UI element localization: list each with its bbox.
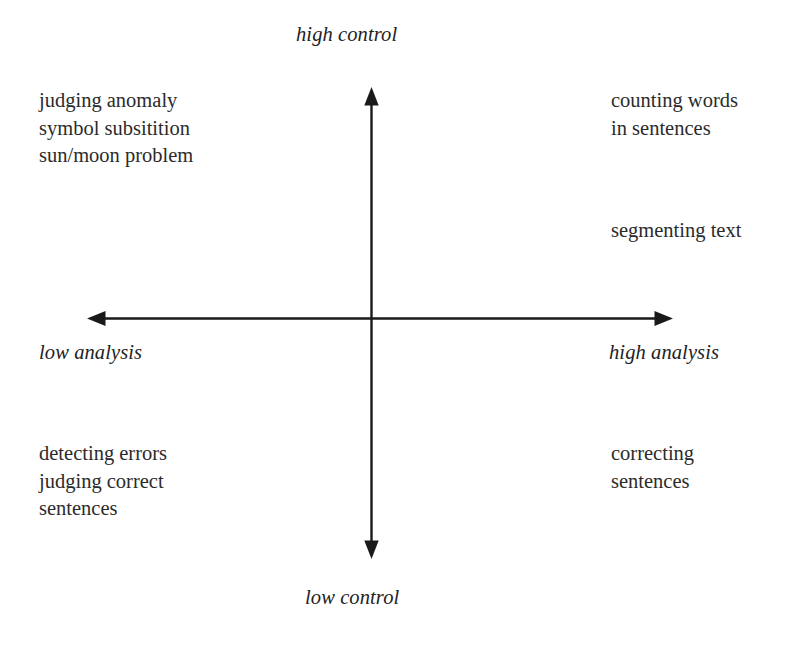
arrowhead-up-icon [364, 87, 378, 106]
arrowhead-left-icon [87, 311, 106, 326]
quadrant-item-line: in sentences [611, 115, 738, 143]
quadrant-items-upper-left: judging anomaly symbol subsitition sun/m… [39, 87, 193, 170]
axis-label-low-control: low control [305, 585, 399, 610]
quadrant-items-lower-right: correcting sentences [611, 440, 694, 495]
axis-label-low-analysis: low analysis [39, 340, 142, 365]
quadrant-item-line: judging correct [39, 468, 167, 496]
arrowhead-down-icon [364, 541, 378, 560]
quadrant-item-line: sentences [611, 468, 694, 496]
quadrant-item-line: judging anomaly [39, 87, 193, 115]
arrowhead-right-icon [655, 311, 674, 326]
quadrant-items-upper-right-secondary: segmenting text [611, 217, 741, 245]
quadrant-item-line: correcting [611, 440, 694, 468]
quadrant-diagram-figure: high control low control low analysis hi… [0, 0, 809, 645]
axis-label-high-control: high control [296, 22, 397, 47]
axis-label-high-analysis: high analysis [609, 340, 719, 365]
quadrant-items-lower-left: detecting errors judging correct sentenc… [39, 440, 167, 523]
quadrant-items-upper-right: counting words in sentences [611, 87, 738, 142]
quadrant-item-line: counting words [611, 87, 738, 115]
quadrant-item-line: symbol subsitition [39, 115, 193, 143]
quadrant-item-line: segmenting text [611, 217, 741, 245]
quadrant-item-line: detecting errors [39, 440, 167, 468]
quadrant-item-line: sun/moon problem [39, 142, 193, 170]
quadrant-item-line: sentences [39, 495, 167, 523]
